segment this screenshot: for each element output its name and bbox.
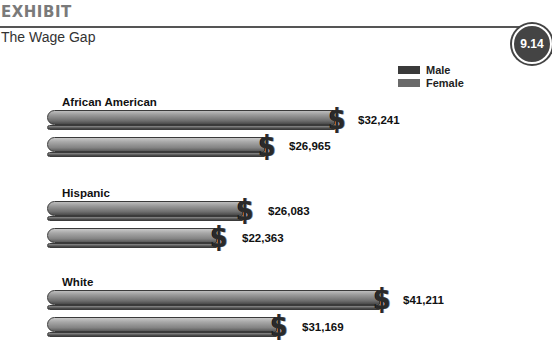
value-african-american-female: $26,965 [289, 140, 331, 152]
bar-base [47, 243, 217, 248]
dollar-sign-icon: $ [210, 222, 227, 252]
group-label-white: White [62, 276, 93, 288]
chart-title: The Wage Gap [1, 29, 95, 45]
bar-hispanic-male: $ [47, 201, 253, 221]
bar-tube [47, 201, 243, 216]
bar-tube [47, 317, 277, 332]
bar-tube [47, 228, 217, 243]
legend-label: Male [426, 64, 450, 76]
bar-white-female: $ [47, 317, 287, 337]
dollar-sign-icon: $ [258, 131, 275, 161]
legend-item-female: Female [398, 77, 464, 89]
value-white-male: $41,211 [403, 294, 444, 306]
dollar-sign-icon: $ [373, 284, 390, 314]
value-hispanic-female: $22,363 [242, 232, 284, 244]
bar-african-american-female: $ [47, 137, 275, 157]
bar-tube [47, 137, 265, 152]
bar-hispanic-female: $ [47, 228, 227, 248]
bar-white-male: $ [47, 290, 390, 310]
legend: Male Female [398, 64, 464, 90]
female-swatch-icon [398, 79, 420, 87]
value-hispanic-male: $26,083 [268, 205, 310, 217]
dollar-sign-icon: $ [236, 195, 253, 225]
legend-label: Female [426, 77, 464, 89]
group-label-hispanic: Hispanic [62, 187, 110, 199]
exhibit-number-badge: 9.14 [512, 24, 552, 64]
dollar-sign-icon: $ [328, 104, 345, 134]
exhibit-label: EXHIBIT [1, 3, 72, 21]
bar-base [47, 152, 265, 157]
value-white-female: $31,169 [302, 321, 344, 333]
bar-tube [47, 290, 380, 305]
bar-base [47, 332, 277, 337]
bar-base [47, 305, 380, 310]
header-rule [0, 26, 520, 28]
value-african-american-male: $32,241 [358, 114, 400, 126]
group-label-african-american: African American [62, 96, 157, 108]
dollar-sign-icon: $ [270, 311, 287, 341]
male-swatch-icon [398, 66, 420, 74]
bar-african-american-male: $ [47, 110, 345, 130]
bar-base [47, 125, 335, 130]
bar-tube [47, 110, 335, 125]
legend-item-male: Male [398, 64, 464, 76]
